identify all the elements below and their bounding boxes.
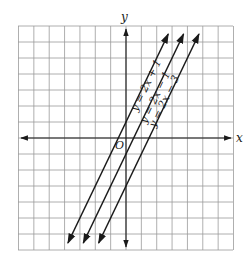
x-axis-label: x <box>236 131 243 145</box>
y-axis-label: y <box>120 10 128 24</box>
coordinate-graph: x y O y = 2x + 1 y = 2x − 1 y = 2x − 3 <box>0 0 252 267</box>
origin-label: O <box>115 139 124 152</box>
